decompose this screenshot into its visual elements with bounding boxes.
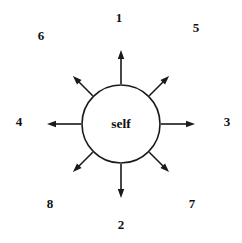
node-label-2: 2 (118, 218, 125, 231)
arrow-shaft (149, 81, 164, 96)
radial-diagram-canvas: self 15372846 (0, 0, 242, 243)
node-label-1: 1 (116, 11, 123, 24)
node-label-6: 6 (38, 29, 45, 42)
arrow-to-node-1 (118, 50, 125, 84)
arrow-head (186, 121, 195, 128)
arrow-head (118, 189, 125, 198)
node-label-7: 7 (189, 197, 196, 210)
arrow-head (118, 50, 125, 59)
arrow-shaft (78, 81, 93, 96)
arrow-to-node-2 (118, 164, 125, 198)
arrow-to-node-7 (149, 152, 169, 172)
node-label-8: 8 (47, 197, 54, 210)
arrow-to-node-8 (73, 152, 93, 172)
arrow-to-node-3 (161, 121, 195, 128)
arrow-shaft (149, 152, 164, 167)
node-label-4: 4 (16, 115, 23, 128)
arrow-to-node-4 (47, 121, 81, 128)
arrow-shaft (78, 152, 93, 167)
node-label-3: 3 (224, 115, 231, 128)
arrow-to-node-5 (149, 76, 169, 96)
arrow-head (47, 121, 56, 128)
arrow-to-node-6 (73, 76, 93, 96)
node-label-5: 5 (193, 21, 200, 34)
self-label: self (111, 117, 131, 131)
